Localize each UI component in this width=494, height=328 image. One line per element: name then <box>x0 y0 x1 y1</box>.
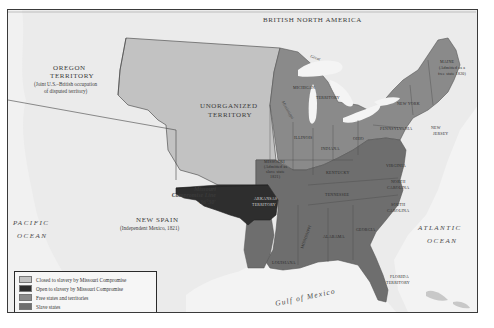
legend-swatch-open <box>19 285 32 292</box>
map-graphic <box>8 10 477 312</box>
label-maine-2: (Admitted as a <box>439 66 465 70</box>
label-oregon-title: OREGON <box>53 65 86 72</box>
label-missouri-compromise-line: Missouri Compromise Line 36°30′ <box>156 186 216 205</box>
legend-item-open: Open to slavery by Missouri Compromise <box>19 284 152 293</box>
label-new-spain: NEW SPAIN <box>136 217 179 224</box>
label-pennsylvania: PENNSYLVANIA <box>380 127 412 131</box>
label-unorganized: UNORGANIZED <box>200 103 258 110</box>
label-maine-3: free state 1820) <box>438 72 466 76</box>
legend-label-slave: Slave states <box>36 304 60 310</box>
legend-item-slave: Slave states <box>19 302 152 311</box>
map-legend: Closed to slavery by Missouri Compromise… <box>14 271 157 313</box>
label-unorganized-2: TERRITORY <box>208 112 252 119</box>
label-indiana: INDIANA <box>321 147 340 151</box>
legend-label-open: Open to slavery by Missouri Compromise <box>36 286 123 292</box>
label-tennessee: TENNESSEE <box>325 193 349 197</box>
label-north-carolina: NORTH <box>391 180 406 184</box>
label-arkansas-2: TERRITORY <box>252 203 276 207</box>
label-ohio: OHIO <box>353 137 364 141</box>
label-alabama: ALABAMA <box>323 235 345 239</box>
label-florida-2: TERRITORY <box>386 281 410 285</box>
label-louisiana: LOUISIANA <box>272 261 296 265</box>
legend-item-free: Free states and territories <box>19 293 152 302</box>
legend-swatch-free <box>19 294 32 301</box>
label-new-jersey-2: JERSEY <box>433 132 448 136</box>
label-new-spain-sub: (Independent Mexico, 1821) <box>120 226 179 231</box>
label-south-carolina: SOUTH <box>391 203 405 207</box>
label-georgia: GEORGIA <box>356 228 375 232</box>
label-pacific-2: OCEAN <box>17 233 47 240</box>
legend-swatch-slave <box>19 303 32 310</box>
label-south-carolina-2: CAROLINA <box>387 209 409 213</box>
label-arkansas: ARKANSAS <box>254 197 277 201</box>
label-kentucky: KENTUCKY <box>326 171 350 175</box>
label-pacific: PACIFIC <box>13 220 49 227</box>
label-michigan-territory: TERRITORY <box>316 96 340 100</box>
label-atlantic: ATLANTIC <box>418 225 462 232</box>
label-oregon-title-2: TERRITORY <box>50 73 94 80</box>
label-illinois: ILLINOIS <box>294 136 313 140</box>
label-florida: FLORIDA <box>390 275 409 279</box>
label-new-jersey: NEW <box>431 126 441 130</box>
mc-line-3: 36°30′ <box>156 199 216 205</box>
label-michigan: MICHIGAN <box>293 86 315 90</box>
legend-swatch-closed <box>19 276 32 283</box>
label-missouri-4: 1821) <box>270 175 280 179</box>
label-atlantic-2: OCEAN <box>427 238 457 245</box>
map-frame: BRITISH NORTH AMERICA OREGON TERRITORY (… <box>7 9 478 313</box>
label-oregon-sub-2: of disputed territory) <box>44 89 87 94</box>
label-north-carolina-2: CAROLINA <box>387 186 409 190</box>
label-maine: MAINE <box>440 60 454 64</box>
label-oregon-sub: (Joint U.S.–British occupation <box>34 82 97 87</box>
label-virginia: VIRGINIA <box>386 164 406 168</box>
label-british-north-america: BRITISH NORTH AMERICA <box>263 17 362 24</box>
label-new-york: NEW YORK <box>397 102 420 106</box>
legend-item-closed: Closed to slavery by Missouri Compromise <box>19 275 152 284</box>
legend-label-free: Free states and territories <box>36 295 88 301</box>
legend-label-closed: Closed to slavery by Missouri Compromise <box>36 277 126 283</box>
